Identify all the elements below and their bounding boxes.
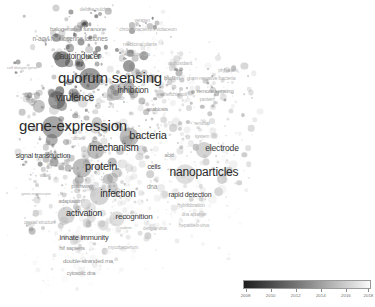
term-label[interactable]: bacteria bbox=[129, 130, 167, 141]
network-node bbox=[144, 232, 151, 239]
term-label[interactable]: halogenated furanone bbox=[50, 26, 106, 32]
term-label[interactable]: medicinal plants bbox=[123, 42, 157, 47]
term-label[interactable]: valerie bbox=[120, 226, 132, 230]
network-node bbox=[102, 182, 104, 184]
network-node bbox=[143, 109, 149, 115]
term-label[interactable]: nanoparticles bbox=[170, 166, 239, 178]
network-node bbox=[118, 125, 124, 131]
network-node bbox=[216, 160, 219, 163]
network-node bbox=[117, 246, 119, 248]
term-label[interactable]: growth bbox=[112, 97, 125, 102]
term-label[interactable]: gram-negative bacteria bbox=[187, 76, 236, 81]
term-label[interactable]: protein bbox=[85, 161, 117, 172]
term-label[interactable]: dengue virus bbox=[143, 227, 167, 232]
term-label[interactable]: acid bbox=[164, 153, 173, 158]
term-label[interactable]: activation bbox=[66, 209, 102, 218]
network-node bbox=[92, 261, 99, 268]
term-label[interactable]: pathway bbox=[71, 183, 93, 189]
term-label[interactable]: rapid detection bbox=[169, 191, 212, 198]
term-label[interactable]: cell division gene bbox=[7, 66, 37, 70]
network-node bbox=[179, 203, 180, 204]
network-node bbox=[238, 132, 242, 136]
term-label[interactable]: n-acyl homoserine lactones bbox=[32, 36, 107, 43]
term-label[interactable]: cells bbox=[147, 163, 160, 170]
term-label[interactable]: system bbox=[195, 134, 210, 139]
term-label[interactable]: reception bbox=[47, 162, 67, 167]
term-label[interactable]: escherichia-coli bbox=[157, 93, 187, 98]
network-node bbox=[69, 88, 78, 97]
term-label[interactable]: dna bbox=[147, 184, 157, 190]
network-node bbox=[149, 29, 150, 30]
term-label[interactable]: recognition bbox=[116, 213, 153, 221]
term-label[interactable]: anabiosis bbox=[146, 107, 168, 113]
term-label[interactable]: hybridization bbox=[177, 203, 205, 208]
term-label[interactable]: emission bbox=[22, 92, 38, 96]
network-node bbox=[97, 88, 100, 91]
term-label[interactable]: veragen bbox=[134, 19, 149, 24]
network-node bbox=[169, 223, 171, 225]
term-label[interactable]: autoinducer bbox=[60, 53, 101, 61]
term-label[interactable]: double-stranded rna bbox=[63, 258, 113, 264]
term-label[interactable]: hepatitis-b-virus bbox=[179, 224, 209, 229]
term-label[interactable]: biofilm bbox=[164, 75, 180, 81]
network-node bbox=[158, 40, 163, 45]
network-node bbox=[191, 90, 195, 94]
network-map-canvas[interactable]: delisea pulchraveragenhalogenated furano… bbox=[0, 0, 375, 307]
term-label[interactable]: virulence bbox=[56, 93, 94, 103]
term-label[interactable]: removal bbox=[195, 122, 210, 127]
term-label[interactable]: electrode bbox=[205, 144, 239, 153]
network-node bbox=[155, 48, 157, 50]
term-label[interactable]: signal transduction bbox=[16, 152, 71, 159]
network-node bbox=[58, 239, 60, 241]
term-label[interactable]: physalarm bbox=[218, 69, 237, 74]
network-node bbox=[75, 210, 79, 214]
term-label[interactable]: dna aptamer bbox=[182, 213, 207, 218]
network-node bbox=[38, 78, 39, 79]
term-label[interactable]: adaptation bbox=[58, 199, 81, 204]
network-node bbox=[221, 155, 227, 161]
network-node bbox=[94, 10, 96, 12]
network-node bbox=[41, 124, 47, 130]
network-node bbox=[76, 214, 77, 215]
term-label[interactable]: delisea pulchra bbox=[80, 7, 111, 12]
term-label[interactable]: dimer bbox=[73, 137, 84, 142]
network-node bbox=[192, 209, 197, 214]
term-label[interactable]: gene-expression bbox=[21, 192, 50, 196]
network-node bbox=[129, 22, 135, 28]
term-label[interactable]: essential oils bbox=[124, 52, 150, 57]
term-label[interactable]: mycobacterium bbox=[108, 246, 138, 251]
network-node bbox=[34, 92, 40, 98]
term-label[interactable]: hif sapiens bbox=[59, 246, 85, 252]
network-node bbox=[187, 95, 189, 97]
network-node bbox=[198, 211, 205, 218]
network-node bbox=[244, 93, 246, 95]
network-node bbox=[63, 223, 64, 224]
term-label[interactable]: protein bbox=[200, 97, 214, 102]
term-label[interactable]: crystal structure bbox=[24, 220, 56, 225]
term-label[interactable]: water bbox=[40, 174, 51, 179]
network-node bbox=[178, 51, 183, 56]
network-node bbox=[92, 187, 97, 192]
term-label[interactable]: infection bbox=[100, 189, 135, 199]
network-node bbox=[151, 151, 153, 153]
network-node bbox=[171, 79, 175, 83]
network-node bbox=[17, 92, 18, 93]
term-label[interactable]: mechanism bbox=[89, 143, 138, 153]
network-node bbox=[131, 68, 139, 76]
term-label[interactable]: gene-expression bbox=[19, 118, 127, 133]
term-label[interactable]: chromobacterium violaceum bbox=[119, 27, 177, 32]
term-label[interactable]: antioxidant bbox=[168, 61, 192, 66]
term-label[interactable]: quorum sensing bbox=[58, 70, 162, 85]
network-node bbox=[189, 69, 190, 70]
network-node bbox=[180, 142, 181, 143]
term-label[interactable]: inhibition bbox=[117, 86, 148, 94]
network-node bbox=[71, 249, 72, 250]
network-node bbox=[202, 100, 203, 101]
network-node bbox=[77, 248, 81, 252]
term-label[interactable]: innate immunity bbox=[60, 234, 109, 241]
network-node bbox=[157, 184, 165, 192]
network-node bbox=[156, 180, 158, 182]
term-label[interactable]: remote sensing bbox=[197, 89, 234, 95]
network-node bbox=[144, 49, 145, 50]
term-label[interactable]: cytosolic dna bbox=[67, 271, 96, 276]
